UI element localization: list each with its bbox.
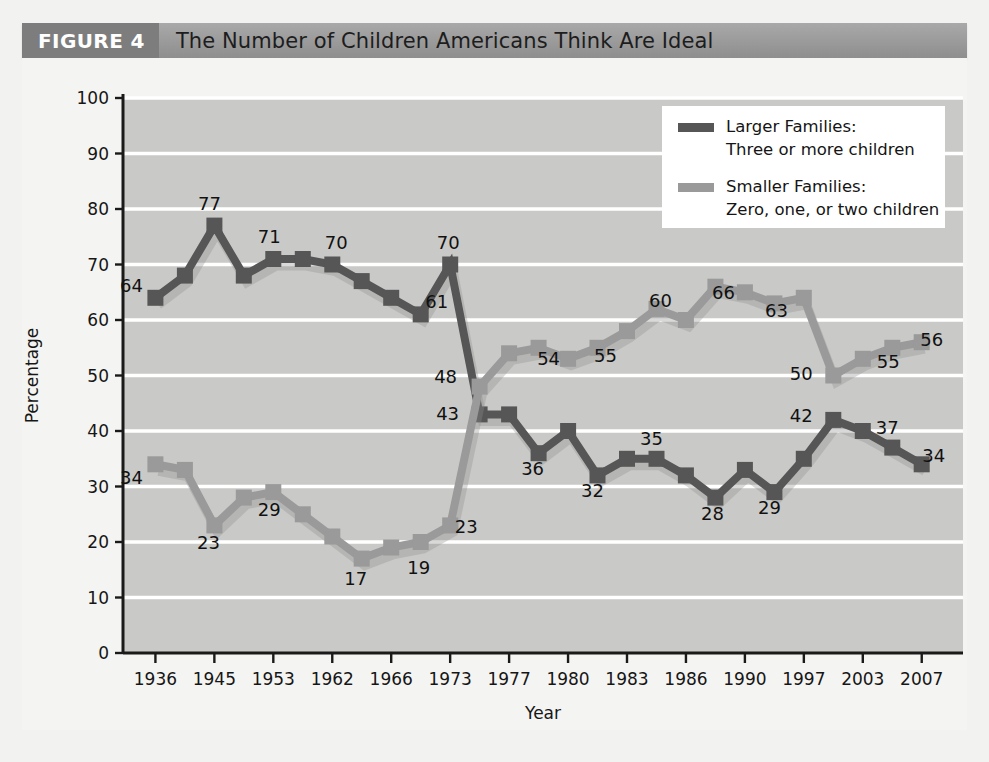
y-axis-title: Percentage [22, 328, 42, 424]
data-point [442, 257, 458, 273]
y-tick-label: 40 [87, 421, 109, 441]
data-point [265, 251, 281, 267]
data-point [383, 290, 399, 306]
data-point-label: 55 [877, 351, 900, 372]
data-point [855, 423, 871, 439]
data-point [678, 467, 694, 483]
data-point-label: 37 [876, 417, 899, 438]
data-point-label: 32 [581, 480, 604, 501]
x-tick-label: 1973 [429, 669, 472, 689]
data-point [236, 268, 252, 284]
data-point-label: 66 [712, 282, 735, 303]
data-point-label: 29 [758, 497, 781, 518]
data-point-label: 28 [701, 503, 724, 524]
data-point-label: 34 [922, 445, 945, 466]
data-point [855, 351, 871, 367]
x-tick-label: 1997 [782, 669, 825, 689]
data-point [413, 534, 429, 550]
data-point-label: 42 [790, 405, 813, 426]
data-point [825, 368, 841, 384]
data-point-label: 50 [790, 363, 813, 384]
data-point [678, 312, 694, 328]
x-tick-label: 2007 [900, 669, 943, 689]
y-axis: 0102030405060708090100 [77, 88, 123, 663]
data-point-label: 55 [594, 345, 617, 366]
data-point [383, 540, 399, 556]
y-tick-label: 10 [87, 588, 109, 608]
x-tick-label: 1953 [252, 669, 295, 689]
y-tick-label: 30 [87, 477, 109, 497]
data-point [560, 351, 576, 367]
data-point [147, 456, 163, 472]
x-tick-label: 1966 [370, 669, 413, 689]
chart-legend: Larger Families:Three or more childrenSm… [662, 106, 945, 228]
data-point [884, 440, 900, 456]
x-tick-label: 1936 [134, 669, 177, 689]
chart-container: 0102030405060708090100Percentage19361945… [0, 0, 989, 762]
data-point-label: 23 [197, 532, 220, 553]
legend-label-primary: Smaller Families: [726, 177, 866, 196]
data-point-label: 64 [120, 275, 143, 296]
data-point [737, 284, 753, 300]
line-chart: 0102030405060708090100Percentage19361945… [0, 0, 989, 762]
data-point [265, 484, 281, 500]
data-point [501, 406, 517, 422]
data-point [796, 451, 812, 467]
data-point-label: 61 [425, 291, 448, 312]
data-point-label: 70 [325, 232, 348, 253]
x-tick-label: 1945 [193, 669, 236, 689]
data-point [236, 490, 252, 506]
data-point-label: 77 [198, 193, 221, 214]
data-point [501, 345, 517, 361]
legend-swatch [678, 123, 714, 132]
data-point-label: 34 [120, 467, 143, 488]
y-tick-label: 60 [87, 310, 109, 330]
data-point [619, 451, 635, 467]
x-axis-title: Year [524, 703, 561, 723]
y-tick-label: 50 [87, 366, 109, 386]
data-point [560, 423, 576, 439]
data-point-label: 48 [434, 366, 457, 387]
legend-label-secondary: Three or more children [725, 140, 915, 159]
data-point-label: 60 [649, 290, 672, 311]
data-point-label: 71 [258, 226, 281, 247]
data-point [324, 257, 340, 273]
data-point [177, 462, 193, 478]
y-tick-label: 80 [87, 199, 109, 219]
y-tick-label: 70 [87, 255, 109, 275]
data-point-label: 63 [765, 300, 788, 321]
data-point [206, 218, 222, 234]
data-point-label: 56 [920, 329, 943, 350]
data-point-label: 70 [437, 232, 460, 253]
x-tick-label: 1983 [605, 669, 648, 689]
data-point-label: 17 [344, 568, 367, 589]
y-tick-label: 90 [87, 144, 109, 164]
x-tick-label: 1980 [546, 669, 589, 689]
data-point [472, 379, 488, 395]
data-point [324, 529, 340, 545]
x-axis: 1936194519531962196619731977198019831986… [134, 653, 944, 689]
data-point-label: 23 [455, 516, 478, 537]
y-tick-label: 20 [87, 532, 109, 552]
data-point [354, 551, 370, 567]
x-tick-label: 1962 [311, 669, 354, 689]
data-point [825, 412, 841, 428]
data-point-label: 43 [436, 403, 459, 424]
x-tick-label: 1986 [664, 669, 707, 689]
legend-label-primary: Larger Families: [726, 117, 857, 136]
data-point [177, 268, 193, 284]
data-point [295, 251, 311, 267]
y-tick-label: 100 [77, 88, 109, 108]
data-point-label: 35 [640, 428, 663, 449]
data-point [649, 451, 665, 467]
data-point-label: 54 [537, 348, 560, 369]
data-point [796, 290, 812, 306]
data-point-label: 29 [258, 499, 281, 520]
data-point [295, 506, 311, 522]
legend-label-secondary: Zero, one, or two children [726, 200, 939, 219]
x-tick-label: 1977 [487, 669, 530, 689]
data-point-label: 19 [407, 557, 430, 578]
data-point [206, 517, 222, 533]
data-point [354, 273, 370, 289]
y-tick-label: 0 [98, 643, 109, 663]
